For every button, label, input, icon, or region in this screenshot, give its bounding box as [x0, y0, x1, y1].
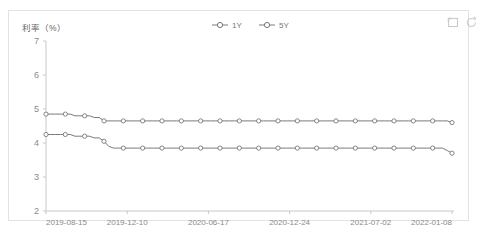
series-marker-1Y — [392, 119, 396, 123]
series-marker-5Y — [121, 146, 125, 150]
y-tick-label: 6 — [34, 70, 39, 80]
series-marker-5Y — [102, 139, 106, 143]
y-tick-label: 7 — [34, 36, 39, 46]
series-marker-5Y — [179, 146, 183, 150]
series-marker-1Y — [295, 119, 299, 123]
series-marker-5Y — [218, 146, 222, 150]
series-marker-1Y — [121, 119, 125, 123]
series-marker-1Y — [450, 121, 454, 125]
series-marker-5Y — [83, 134, 87, 138]
series-marker-1Y — [102, 119, 106, 123]
series-marker-5Y — [373, 146, 377, 150]
restore-icon[interactable] — [465, 16, 477, 29]
series-marker-5Y — [450, 151, 454, 155]
series-line-5Y — [46, 135, 452, 154]
series-marker-5Y — [44, 132, 48, 136]
series-marker-5Y — [63, 132, 67, 136]
series-marker-5Y — [334, 146, 338, 150]
series-marker-5Y — [199, 146, 203, 150]
x-tick-label: 2021-07-02 — [350, 218, 391, 227]
series-marker-1Y — [44, 112, 48, 116]
chart-plot-area[interactable]: 利率（%）2345672019-08-152019-12-102020-06-1… — [0, 0, 477, 239]
series-marker-1Y — [257, 119, 261, 123]
series-marker-5Y — [353, 146, 357, 150]
series-marker-1Y — [63, 112, 67, 116]
series-marker-1Y — [315, 119, 319, 123]
series-marker-1Y — [373, 119, 377, 123]
x-tick-label: 2019-12-10 — [107, 218, 148, 227]
y-tick-label: 2 — [34, 206, 39, 216]
series-marker-1Y — [179, 119, 183, 123]
series-marker-5Y — [392, 146, 396, 150]
series-marker-5Y — [237, 146, 241, 150]
x-tick-label: 2019-08-15 — [46, 218, 87, 227]
series-marker-1Y — [334, 119, 338, 123]
series-marker-1Y — [83, 114, 87, 118]
series-marker-5Y — [257, 146, 261, 150]
y-tick-label: 3 — [34, 172, 39, 182]
series-marker-5Y — [315, 146, 319, 150]
series-marker-5Y — [160, 146, 164, 150]
series-marker-5Y — [431, 146, 435, 150]
series-marker-5Y — [411, 146, 415, 150]
series-marker-1Y — [160, 119, 164, 123]
series-marker-1Y — [353, 119, 357, 123]
series-marker-1Y — [141, 119, 145, 123]
y-axis-title: 利率（%） — [22, 23, 66, 33]
series-marker-1Y — [218, 119, 222, 123]
series-marker-5Y — [276, 146, 280, 150]
series-marker-5Y — [141, 146, 145, 150]
legend-marker-5Y[interactable] — [264, 22, 269, 27]
legend-marker-1Y[interactable] — [217, 22, 222, 27]
y-tick-label: 4 — [34, 138, 39, 148]
series-marker-1Y — [237, 119, 241, 123]
legend-label-1Y[interactable]: 1Y — [232, 21, 242, 30]
series-marker-1Y — [431, 119, 435, 123]
y-tick-label: 5 — [34, 104, 39, 114]
x-tick-label: 2022-01-08 — [411, 218, 452, 227]
x-tick-label: 2020-06-17 — [188, 218, 229, 227]
interest-rate-chart-card: 利率（%）2345672019-08-152019-12-102020-06-1… — [0, 0, 477, 239]
datazoom-rect-icon[interactable] — [447, 16, 460, 29]
legend-label-5Y[interactable]: 5Y — [279, 21, 289, 30]
series-marker-1Y — [411, 119, 415, 123]
series-marker-1Y — [276, 119, 280, 123]
series-marker-5Y — [295, 146, 299, 150]
x-tick-label: 2020-12-24 — [269, 218, 310, 227]
series-marker-1Y — [199, 119, 203, 123]
series-line-1Y — [46, 114, 452, 123]
